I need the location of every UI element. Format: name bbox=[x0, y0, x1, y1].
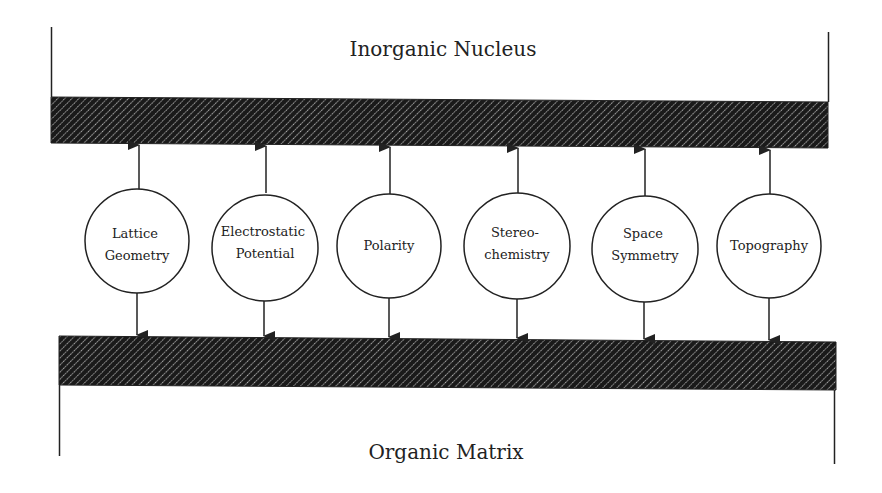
diagram-canvas: Inorganic Nucleus Organic Matrix Lattice… bbox=[0, 0, 882, 493]
organic-matrix-label: Organic Matrix bbox=[368, 440, 524, 464]
node-stereochemistry: Stereo- chemistry bbox=[464, 148, 570, 338]
node-lattice-geometry: Lattice Geometry bbox=[85, 145, 189, 335]
node-label: Topography bbox=[730, 238, 809, 253]
node-polarity: Polarity bbox=[337, 147, 441, 337]
node-space-symmetry: Space Symmetry bbox=[592, 149, 698, 339]
inorganic-nucleus: Inorganic Nucleus bbox=[51, 27, 829, 148]
organic-matrix: Organic Matrix bbox=[59, 336, 836, 464]
node-topography: Topography bbox=[717, 150, 821, 340]
inorganic-nucleus-label: Inorganic Nucleus bbox=[350, 37, 537, 61]
nucleus-hatched-bar bbox=[51, 97, 828, 148]
node-circle bbox=[85, 189, 189, 293]
node-circle bbox=[464, 193, 570, 299]
node-electrostatic-potential: Electrostatic Potential bbox=[212, 146, 318, 336]
matrix-hatched-bar bbox=[59, 336, 836, 390]
node-label: Polarity bbox=[364, 238, 416, 253]
